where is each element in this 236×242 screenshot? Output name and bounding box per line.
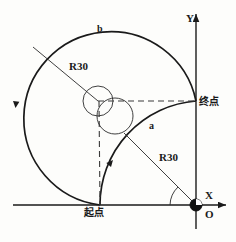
y-axis-label: Y <box>186 13 194 24</box>
x-axis-label: X <box>205 190 213 201</box>
origin-point-highlight <box>196 199 202 205</box>
outer-radius-dimension-label: R30 <box>69 61 88 72</box>
inner-radius-dimension-label: R30 <box>159 152 178 163</box>
start-point-label: 起点 <box>84 208 104 218</box>
inner-arc-a <box>100 101 196 205</box>
inner-arc-label-a: a <box>149 121 154 131</box>
end-point-label: 终点 <box>199 97 219 107</box>
figure-canvas <box>0 0 236 242</box>
inner-radius-leader-line <box>124 133 196 205</box>
outer-arc-label-b: b <box>97 24 103 34</box>
outer-arc-direction-arrow <box>12 101 19 108</box>
origin-angle-arc <box>170 187 178 205</box>
engineering-drawing-figure: Y X O b a R30 R30 起点 终点 <box>0 0 236 242</box>
inner-arc-center-circle <box>97 98 133 134</box>
vertical-center-dashed-line <box>99 101 100 205</box>
outer-radius-leader-line <box>33 47 98 101</box>
origin-label: O <box>205 209 214 220</box>
